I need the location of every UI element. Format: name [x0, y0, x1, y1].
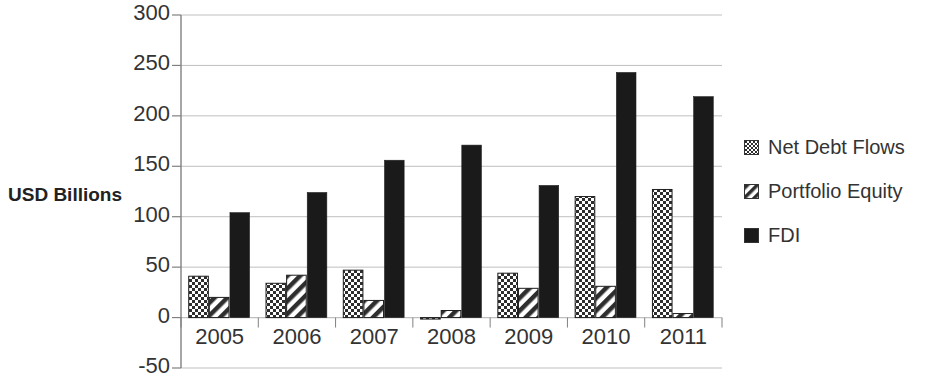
bar — [266, 283, 286, 317]
legend-label: Net Debt Flows — [768, 136, 905, 159]
x-tick-label: 2006 — [258, 324, 335, 350]
bar — [694, 97, 714, 318]
x-tick-label: 2007 — [336, 324, 413, 350]
bar — [575, 197, 595, 318]
y-tick-label: 150 — [96, 151, 170, 177]
x-tick-label: 2005 — [181, 324, 258, 350]
x-tick-label: 2009 — [490, 324, 567, 350]
bar — [673, 314, 693, 318]
bar — [287, 275, 307, 317]
bar — [230, 213, 250, 318]
bar — [364, 300, 384, 317]
bar — [421, 318, 441, 320]
legend-swatch-solid-icon — [744, 228, 759, 243]
bar-chart: USD Billions — [0, 0, 925, 377]
bar — [539, 185, 559, 317]
bar — [441, 311, 461, 318]
legend-item[interactable]: FDI — [744, 224, 800, 247]
legend-label: FDI — [768, 224, 800, 247]
bar — [616, 72, 636, 317]
bar — [596, 286, 616, 317]
legend-swatch-diagonal-stripes-icon — [744, 184, 759, 199]
y-tick-label: -50 — [96, 353, 170, 377]
y-tick-label: 100 — [96, 202, 170, 228]
bar — [209, 297, 229, 317]
x-tick-label: 2011 — [645, 324, 722, 350]
legend-swatch-checkerboard-icon — [744, 140, 759, 155]
y-tick-label: 50 — [96, 252, 170, 278]
y-tick-label: 300 — [96, 0, 170, 26]
y-tick-label: 0 — [96, 303, 170, 329]
bar — [307, 193, 327, 318]
bar — [652, 189, 672, 317]
y-tick-label: 250 — [96, 50, 170, 76]
legend-item[interactable]: Portfolio Equity — [744, 180, 903, 203]
bar — [462, 145, 482, 317]
bar — [189, 276, 209, 317]
y-tick-label: 200 — [96, 101, 170, 127]
bar — [498, 273, 518, 317]
tick-marks — [172, 15, 181, 368]
x-tick-label: 2010 — [567, 324, 644, 350]
bar — [518, 288, 538, 317]
bar — [385, 160, 405, 317]
legend-label: Portfolio Equity — [768, 180, 903, 203]
legend-item[interactable]: Net Debt Flows — [744, 136, 905, 159]
x-tick-label: 2008 — [413, 324, 490, 350]
bar — [343, 270, 363, 317]
bars-layer — [189, 72, 714, 319]
